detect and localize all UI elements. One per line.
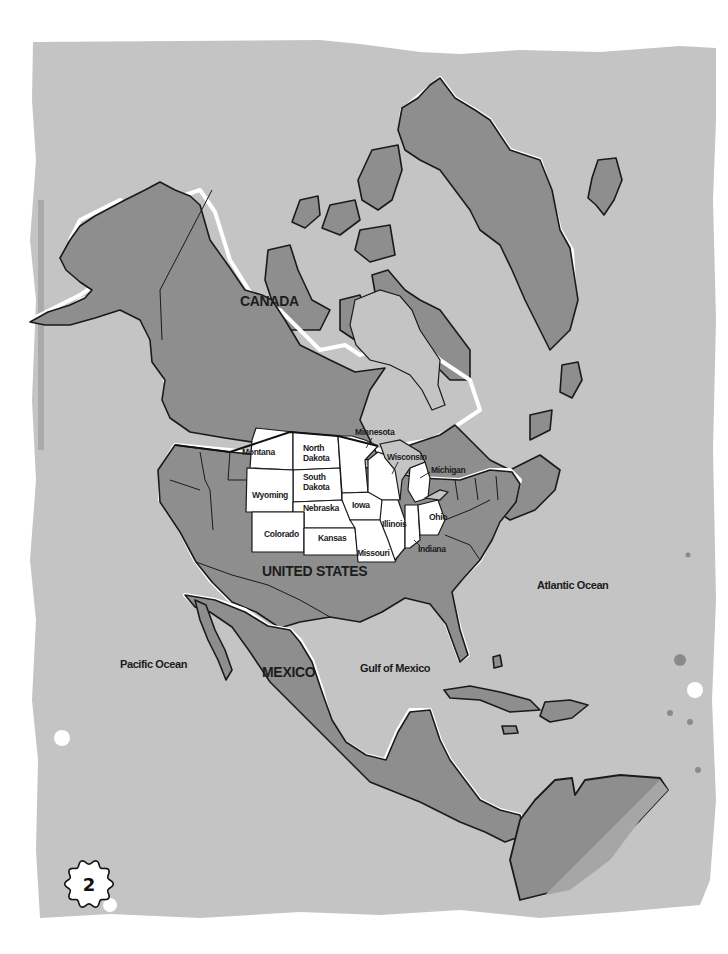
label-montana: Montana — [242, 447, 275, 457]
label-minnesota: Minnesota — [355, 427, 395, 437]
label-south-dakota-line2: Dakota — [303, 482, 330, 492]
label-michigan: Michigan — [431, 465, 466, 475]
label-iowa: Iowa — [352, 500, 370, 510]
label-united-states: UNITED STATES — [262, 563, 367, 579]
label-mexico: MEXICO — [262, 664, 316, 680]
paint-dot — [687, 719, 693, 725]
paint-splat — [54, 730, 70, 746]
jamaica — [502, 726, 518, 734]
label-atlantic-ocean: Atlantic Ocean — [537, 579, 609, 591]
label-kansas: Kansas — [318, 533, 347, 543]
label-wyoming: Wyoming — [252, 490, 288, 500]
map-canvas: CANADA UNITED STATES MEXICO Pacific Ocea… — [0, 0, 728, 954]
label-gulf-of-mexico: Gulf of Mexico — [360, 662, 431, 674]
page-number: 2 — [83, 874, 96, 895]
label-nebraska: Nebraska — [303, 503, 339, 513]
label-indiana: Indiana — [418, 544, 446, 554]
paint-dot — [686, 553, 691, 558]
paint-dot — [674, 654, 686, 666]
label-north-dakota-line2: Dakota — [303, 453, 330, 463]
paint-dot — [695, 767, 701, 773]
label-canada: CANADA — [240, 293, 299, 309]
label-pacific-ocean: Pacific Ocean — [120, 658, 188, 670]
paint-splat — [687, 682, 703, 698]
label-missouri: Missouri — [357, 548, 390, 558]
label-north-dakota-line1: North — [303, 443, 324, 453]
label-illinois: Illinois — [382, 519, 407, 529]
state-indiana-shape — [405, 505, 420, 548]
paint-dot — [667, 710, 673, 716]
page-number-badge: 2 — [65, 861, 113, 907]
label-south-dakota-line1: South — [303, 472, 326, 482]
label-ohio: Ohio — [429, 512, 447, 522]
label-colorado: Colorado — [264, 529, 299, 539]
label-wisconsin: Wisconsin — [387, 452, 427, 462]
bahamas — [493, 655, 502, 668]
north-america-map: CANADA UNITED STATES MEXICO Pacific Ocea… — [0, 0, 728, 954]
